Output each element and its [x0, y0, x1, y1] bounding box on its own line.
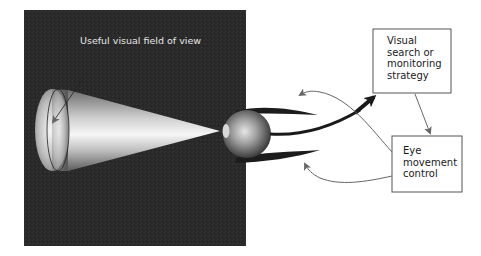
strategy-line-4: strategy	[387, 70, 442, 82]
strategy-to-control-arrow	[415, 94, 430, 133]
strategy-line-2: search or	[387, 47, 442, 59]
eye-to-strategy-arrow	[355, 97, 374, 113]
visual-field-diagram: Useful visual field of view Visual searc…	[0, 0, 481, 256]
strategy-box-label: Visual search or monitoring strategy	[387, 35, 442, 81]
control-to-upper-lid-arrow	[300, 91, 392, 152]
field-of-view-label: Useful visual field of view	[80, 35, 201, 46]
strategy-line-1: Visual	[387, 35, 442, 47]
control-line-3: control	[403, 168, 457, 180]
control-line-1: Eye	[403, 145, 457, 157]
control-line-2: movement	[403, 157, 457, 169]
eye-control-box-label: Eye movement control	[403, 145, 457, 180]
control-to-lower-lid-arrow	[305, 164, 392, 182]
strategy-line-3: monitoring	[387, 58, 442, 70]
